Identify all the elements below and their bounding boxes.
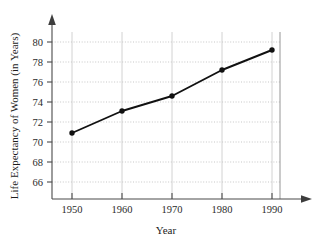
ytick-label-68: 68: [33, 157, 44, 168]
ytick-label-78: 78: [33, 57, 44, 68]
x-axis-title: Year: [156, 224, 177, 236]
line-chart-figure: 80 78 76 74 72 70 68 66 1950 1960 1970 1…: [0, 0, 318, 244]
xtick-label-1970: 1970: [162, 204, 183, 215]
data-point-1960: [119, 108, 124, 113]
data-point-1970: [169, 93, 174, 98]
ytick-label-66: 66: [33, 177, 44, 188]
y-axis-tick-labels: 80 78 76 74 72 70 68 66: [33, 37, 44, 188]
xtick-label-1980: 1980: [212, 204, 233, 215]
data-point-1990: [269, 47, 274, 52]
x-axis-tick-labels: 1950 1960 1970 1980 1990: [62, 204, 283, 215]
ytick-label-70: 70: [33, 137, 44, 148]
xtick-label-1990: 1990: [262, 204, 283, 215]
y-axis-ticks: [47, 42, 52, 182]
data-point-1950: [69, 130, 74, 135]
ytick-label-72: 72: [33, 117, 44, 128]
ytick-label-80: 80: [33, 37, 44, 48]
data-point-1980: [219, 67, 224, 72]
chart-canvas: 80 78 76 74 72 70 68 66 1950 1960 1970 1…: [0, 0, 318, 244]
ytick-label-76: 76: [33, 77, 44, 88]
ytick-label-74: 74: [33, 97, 44, 108]
xtick-label-1950: 1950: [62, 204, 83, 215]
y-axis-title: Life Expectancy of Women (in Years): [8, 33, 21, 200]
xtick-label-1960: 1960: [112, 204, 133, 215]
arrow-right-icon: [301, 195, 312, 203]
arrow-up-icon: [48, 14, 56, 25]
plot-background: [52, 32, 280, 199]
